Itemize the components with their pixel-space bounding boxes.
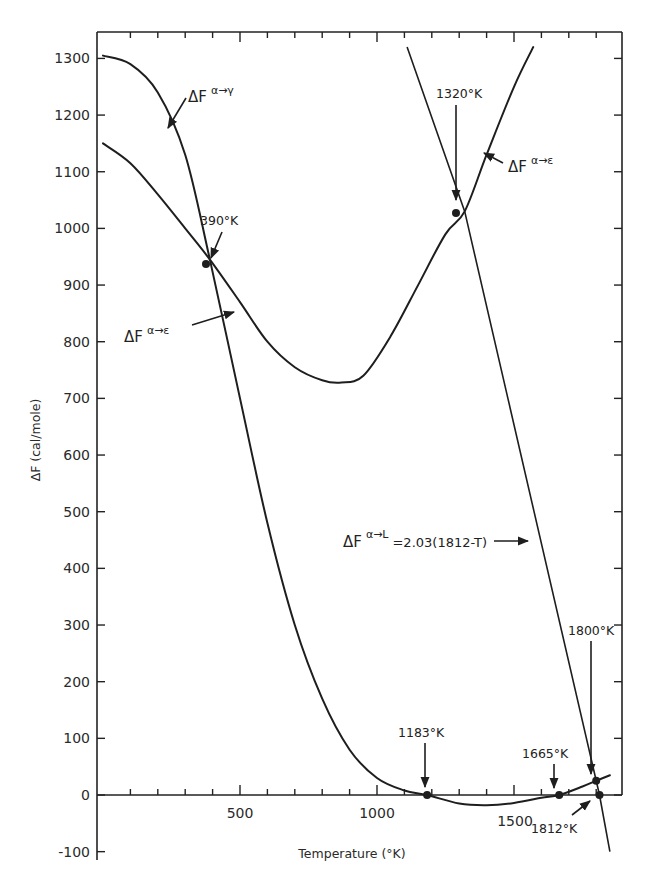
intersection-dot-icon bbox=[555, 791, 563, 799]
label-delta-f: ΔF bbox=[343, 533, 362, 551]
y-tick-900: 900 bbox=[63, 277, 90, 293]
y-tick-200: 200 bbox=[63, 674, 90, 690]
intersection-dot-icon bbox=[423, 791, 431, 799]
svg-text:1183°K: 1183°K bbox=[398, 725, 445, 740]
intersection-dot-icon bbox=[592, 777, 600, 785]
curves bbox=[103, 47, 610, 852]
y-tick--100: -100 bbox=[58, 844, 90, 860]
arrow-icon bbox=[484, 153, 503, 163]
x-tick-500: 500 bbox=[227, 805, 254, 821]
y-tick-1000: 1000 bbox=[54, 220, 90, 236]
x-tick-1500: 1500 bbox=[497, 813, 533, 829]
arrow-icon bbox=[192, 312, 234, 325]
annotation-1665K: 1665°K bbox=[522, 746, 569, 788]
label-delta-f: ΔF bbox=[188, 88, 207, 106]
annotation-390K: 390°K bbox=[200, 213, 239, 258]
y-tick-700: 700 bbox=[63, 390, 90, 406]
svg-text:ΔF α→L =2.03(1812-: ΔF α→L =2.03(1812-T) bbox=[343, 526, 487, 551]
y-tick-600: 600 bbox=[63, 447, 90, 463]
annotation-1800K: 1800°K bbox=[568, 623, 615, 774]
y-tick-500: 500 bbox=[63, 504, 90, 520]
svg-text:1665°K: 1665°K bbox=[522, 746, 569, 761]
curve-label-alpha-epsilon-left: ΔF α→ε bbox=[124, 312, 234, 346]
y-axis-title: ΔF (cal/mole) bbox=[28, 399, 43, 482]
svg-text:1800°K: 1800°K bbox=[568, 623, 615, 638]
x-axis-tick-labels: 500 1000 1500 bbox=[227, 805, 533, 829]
y-tick-1200: 1200 bbox=[54, 107, 90, 123]
label-delta-f: ΔF bbox=[508, 158, 527, 176]
free-energy-chart: -100010020030040050060070080090010001100… bbox=[0, 0, 649, 893]
label-superscript: α→L bbox=[366, 528, 389, 541]
annotation-1812K: 1812°K bbox=[531, 801, 590, 836]
y-tick-0: 0 bbox=[81, 787, 90, 803]
curve-alpha-gamma bbox=[103, 56, 610, 806]
intersection-dot-icon bbox=[596, 791, 604, 799]
y-tick-100: 100 bbox=[63, 730, 90, 746]
y-tick-1100: 1100 bbox=[54, 164, 90, 180]
label-superscript: α→ε bbox=[531, 154, 553, 167]
label-formula: =2.03(1812-T) bbox=[392, 535, 487, 550]
svg-text:ΔF α→γ: ΔF α→γ bbox=[188, 84, 234, 106]
y-tick-400: 400 bbox=[63, 560, 90, 576]
y-tick-800: 800 bbox=[63, 334, 90, 350]
arrow-icon bbox=[168, 98, 186, 128]
curve-label-alpha-liquid: ΔF α→L =2.03(1812-T) bbox=[343, 526, 528, 551]
label-superscript: α→ε bbox=[147, 324, 169, 337]
y-axis-tick-labels: -100010020030040050060070080090010001100… bbox=[54, 50, 90, 859]
svg-text:390°K: 390°K bbox=[200, 213, 239, 228]
arrow-icon bbox=[572, 801, 590, 815]
intersection-dot-icon bbox=[452, 209, 460, 217]
label-delta-f: ΔF bbox=[124, 328, 143, 346]
svg-text:1320°K: 1320°K bbox=[436, 86, 483, 101]
arrow-icon bbox=[211, 232, 222, 258]
curve-label-alpha-epsilon-top: ΔF α→ε bbox=[484, 153, 553, 176]
svg-text:ΔF α→ε: ΔF α→ε bbox=[508, 154, 553, 176]
intersection-dot-icon bbox=[202, 260, 210, 268]
y-tick-1300: 1300 bbox=[54, 50, 90, 66]
label-superscript: α→γ bbox=[211, 84, 234, 97]
svg-text:ΔF α→ε: ΔF α→ε bbox=[124, 324, 169, 346]
curve-label-alpha-gamma: ΔF α→γ bbox=[168, 84, 234, 128]
svg-text:1812°K: 1812°K bbox=[531, 821, 578, 836]
annotation-1183K: 1183°K bbox=[398, 725, 445, 787]
y-tick-300: 300 bbox=[63, 617, 90, 633]
x-axis-title: Temperature (°K) bbox=[297, 846, 405, 861]
x-tick-1000: 1000 bbox=[359, 805, 395, 821]
